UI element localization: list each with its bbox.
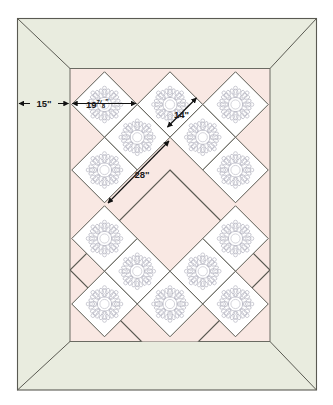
dimension-label-14: 14" xyxy=(174,109,189,120)
dimension-label-19-7-8-whole: 19 xyxy=(86,99,97,110)
block-group xyxy=(72,271,269,337)
quilt-diagram: 15" 197/8" 14" 28" xyxy=(0,0,333,405)
quilt-diagram-svg: 15" 197/8" 14" 28" xyxy=(0,0,333,405)
block-layout-group xyxy=(70,72,270,370)
dimension-label-15: 15" xyxy=(36,98,51,109)
dimension-label-28: 28" xyxy=(134,169,149,180)
dimension-label-19-7-8-unit: " xyxy=(105,97,109,106)
